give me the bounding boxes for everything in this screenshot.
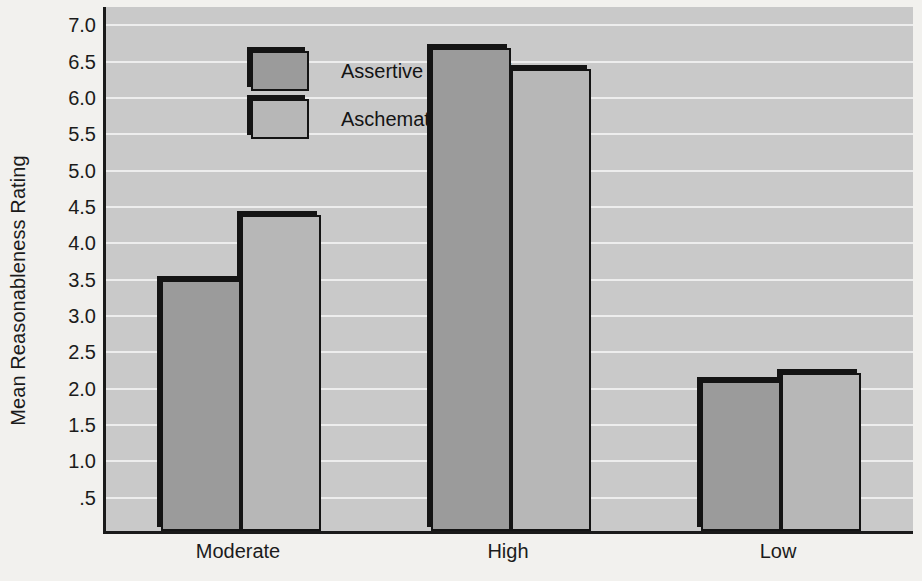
y-axis-tick-label: 1.0 [40, 450, 96, 473]
y-axis-tick [103, 424, 106, 427]
y-axis-tick-label: .5 [40, 486, 96, 509]
y-axis-tick-label: 2.5 [40, 341, 96, 364]
y-axis-tick [103, 315, 106, 318]
x-axis-category-label: Low [760, 540, 797, 563]
y-axis-tick [103, 97, 106, 100]
legend-swatch [251, 51, 309, 91]
y-axis-tick-label: 7.0 [40, 14, 96, 37]
x-axis-category-label: Moderate [196, 540, 281, 563]
gridline [106, 24, 913, 26]
y-axis-tick [103, 133, 106, 136]
bar [431, 48, 511, 531]
y-axis-tick [103, 242, 106, 245]
legend-swatch [251, 99, 309, 139]
y-axis-title-text: Mean Reasonableness Rating [7, 155, 30, 426]
plot-area: Assertive SchematicsAschematics [103, 7, 913, 534]
y-axis-tick-label: 6.0 [40, 86, 96, 109]
y-axis-tick [103, 206, 106, 209]
bar [511, 69, 591, 531]
y-axis-tick-label: 4.5 [40, 195, 96, 218]
x-axis-category-labels: ModerateHighLow [103, 540, 913, 580]
y-axis-tick [103, 497, 106, 500]
bar [241, 215, 321, 531]
y-axis-tick [103, 279, 106, 282]
y-axis-tick [103, 388, 106, 391]
y-axis-tick [103, 61, 106, 64]
y-axis-tick [103, 351, 106, 354]
y-axis-tick-label: 6.5 [40, 50, 96, 73]
y-axis-tick-label: 5.5 [40, 123, 96, 146]
y-axis-tick-label: 5.0 [40, 159, 96, 182]
y-axis-tick-label: 4.0 [40, 232, 96, 255]
y-axis-tick [103, 24, 106, 27]
y-axis-title: Mean Reasonableness Rating [0, 0, 36, 581]
x-axis-category-label: High [487, 540, 528, 563]
chart-figure: Mean Reasonableness Rating .51.01.52.02.… [0, 0, 922, 581]
y-axis-tick [103, 170, 106, 173]
y-axis-tick [103, 460, 106, 463]
bar [701, 381, 781, 531]
y-axis-tick-label: 3.0 [40, 304, 96, 327]
y-axis-tick-label: 3.5 [40, 268, 96, 291]
y-axis-tick-label: 1.5 [40, 413, 96, 436]
bar [161, 280, 241, 531]
y-axis-tick-label: 2.0 [40, 377, 96, 400]
bar [781, 373, 861, 531]
y-axis-tick-labels: .51.01.52.02.53.03.54.04.55.05.56.06.57.… [40, 0, 96, 581]
